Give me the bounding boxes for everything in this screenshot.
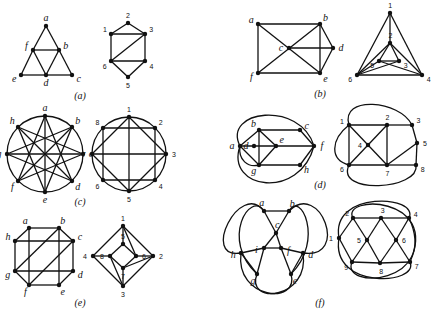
edge [264,233,276,248]
vertex [279,246,283,250]
vertex [239,251,243,255]
vertex-label: d [244,140,250,151]
graph-left: bcadefgh [230,115,325,183]
edge [33,50,46,75]
vertex-label: e [279,134,284,145]
vertex-label: a [43,12,48,23]
vertex [57,226,61,230]
edge [59,50,72,75]
panel-a: afbedc213645 [12,12,153,89]
vertex [287,209,291,213]
panel-e: abhcgdfe14235867 [5,215,163,298]
edge [320,24,333,48]
graph-left: abhcgdfe [5,215,83,297]
vertex [16,179,20,183]
panel-b: abcdfe125364 [249,2,431,84]
vertex-label: 6 [142,253,146,260]
vertex-label: i [255,244,258,255]
vertex-label: f [24,286,28,297]
vertex [27,226,31,230]
edge [123,226,153,256]
vertex [274,144,278,148]
edge [33,26,46,50]
vertex [108,254,112,258]
vertex-label: h [231,249,236,260]
vertex-label: b [323,12,328,23]
vertex [298,128,302,132]
vertex-label: 6 [348,76,352,83]
vertex-label: g [250,275,255,286]
edge [412,125,417,143]
vertex [44,24,48,28]
vertex-label: h [5,231,10,242]
vertex [127,189,131,193]
vertex-label: 6 [340,166,344,173]
edge [241,248,264,253]
vertex [71,269,75,273]
vertex [71,239,75,243]
vertex [347,123,351,127]
vertex-label: 5 [121,233,125,240]
edge [59,271,73,285]
vertex [287,46,291,50]
graph-panels: afbedc213645abcdfe125364abcdefgh12345678… [0,2,431,298]
vertex-label: f [25,40,29,51]
vertex-label: b [60,215,65,226]
vertex [121,242,125,246]
vertex-label: g [0,148,2,159]
edge [380,240,396,263]
vertex [164,152,168,156]
vertex-label: 1 [388,2,392,9]
vertex [121,284,125,288]
vertex [262,246,266,250]
vertex [377,59,381,63]
vertex-label: 2 [388,32,392,39]
vertex [13,269,17,273]
vertex-label: d [75,181,81,192]
edge [390,43,399,61]
vertex-label: f [11,181,15,192]
vertex-label: 1 [121,215,125,222]
vertex-label: 3 [121,291,125,298]
vertex [415,141,419,145]
vertex-label: 3 [149,26,153,33]
vertex-label: e [60,286,65,297]
vertex-label: c [77,73,82,84]
vertex-label: 7 [121,273,125,280]
vertex-label: d [338,42,344,53]
vertex-label: c [275,219,280,230]
vertex-label: 8 [95,119,99,126]
graph-left: afbedc [12,12,81,88]
vertex [318,71,322,75]
vertex [153,126,157,130]
vertex-label: 7 [82,151,86,158]
edge [380,262,410,263]
vertex [27,283,31,287]
vertex-label: 7 [386,170,390,177]
vertex [70,125,74,129]
edge [257,248,264,274]
vertex [351,216,355,220]
vertex [19,73,23,77]
vertex [143,59,147,63]
edge [123,226,136,256]
edge [320,48,333,73]
vertex-label: d [43,77,49,88]
vertex [350,260,354,264]
panel-caption: (b) [314,88,326,100]
vertex [126,21,130,25]
edge [367,240,380,263]
vertex [355,73,359,77]
edge [46,50,59,75]
edge [123,256,136,268]
edge [128,61,145,77]
vertex [410,123,414,127]
edge [367,218,381,240]
vertex-label: 5 [370,62,374,69]
vertex [318,22,322,26]
vertex [256,71,260,75]
vertex [127,115,131,119]
vertex [57,48,61,52]
vertex [408,260,412,264]
curved-edge [241,253,292,294]
